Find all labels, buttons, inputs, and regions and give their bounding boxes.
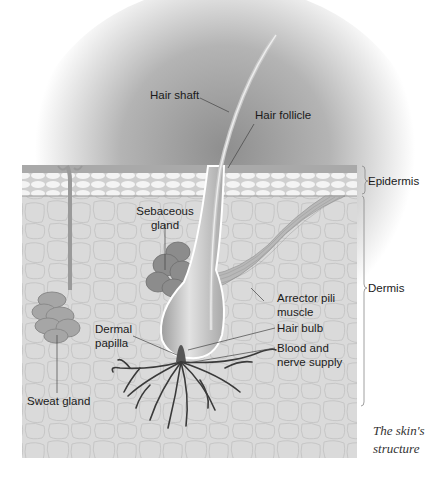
skin-diagram <box>0 0 448 483</box>
label-arrector-pili: Arrector pili muscle <box>277 291 335 319</box>
label-blood-nerve: Blood and nerve supply <box>277 341 342 369</box>
label-sebaceous-line2: gland <box>135 218 195 232</box>
label-sebaceous-gland: Sebaceous gland <box>135 204 195 232</box>
label-arrector-line1: Arrector pili <box>277 291 335 305</box>
label-blood-line2: nerve supply <box>277 355 342 369</box>
label-dermal-line1: Dermal <box>95 322 132 336</box>
label-arrector-line2: muscle <box>277 305 335 319</box>
label-hair-shaft: Hair shaft <box>150 88 199 102</box>
label-sweat-gland: Sweat gland <box>27 394 90 408</box>
caption-line2: structure <box>373 440 425 458</box>
label-hair-follicle: Hair follicle <box>255 108 311 122</box>
label-hair-bulb: Hair bulb <box>277 321 323 335</box>
caption-line1: The skin's <box>373 422 425 440</box>
label-sebaceous-line1: Sebaceous <box>135 204 195 218</box>
label-epidermis: Epidermis <box>368 174 419 188</box>
label-blood-line1: Blood and <box>277 341 342 355</box>
label-dermal-papilla: Dermal papilla <box>95 322 132 350</box>
figure-caption: The skin's structure <box>373 422 425 458</box>
epidermis-layer <box>22 172 357 196</box>
label-dermal-line2: papilla <box>95 336 132 350</box>
label-dermis: Dermis <box>368 281 404 295</box>
